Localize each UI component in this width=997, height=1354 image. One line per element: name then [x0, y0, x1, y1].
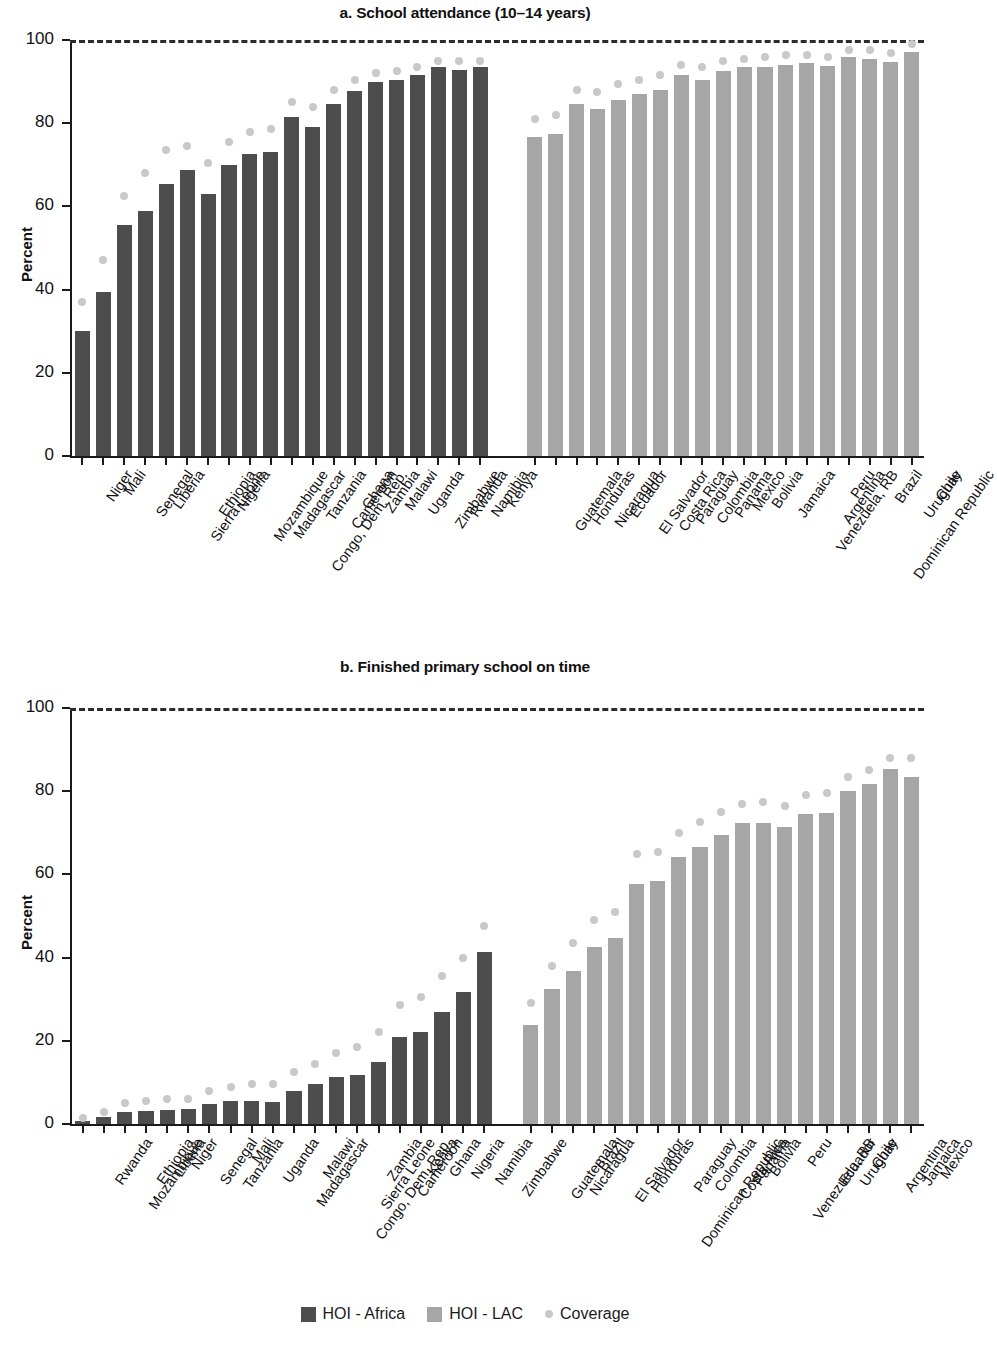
coverage-dot: [845, 46, 853, 54]
x-axis-tick: [762, 1126, 764, 1133]
x-axis-tick: [207, 458, 209, 465]
coverage-dot: [100, 1108, 108, 1116]
bar: [548, 134, 563, 456]
coverage-dot: [248, 1080, 256, 1088]
y-axis-label: 80: [10, 112, 54, 132]
coverage-dot: [438, 972, 446, 980]
coverage-dot: [696, 818, 704, 826]
coverage-dot: [824, 53, 832, 61]
bar: [223, 1101, 238, 1124]
legend-swatch-icon: [301, 1307, 316, 1322]
coverage-dot: [782, 51, 790, 59]
x-axis-tick: [230, 1126, 232, 1133]
coverage-dot: [246, 128, 254, 136]
coverage-dot: [204, 159, 212, 167]
x-axis-tick: [805, 1126, 807, 1133]
bar: [477, 952, 492, 1124]
x-axis-tick: [638, 458, 640, 465]
x-axis-tick: [806, 458, 808, 465]
coverage-dot: [353, 1043, 361, 1051]
x-axis-category-label: Rwanda: [111, 1135, 155, 1188]
y-axis-tick: [62, 1040, 70, 1042]
coverage-dot: [635, 76, 643, 84]
bar: [590, 109, 605, 456]
x-axis-tick: [483, 1126, 485, 1133]
coverage-dot: [434, 57, 442, 65]
bar: [756, 823, 771, 1124]
x-axis-tick: [534, 458, 536, 465]
coverage-dot: [288, 98, 296, 106]
plot-area-a: Percent020406080100NigerMaliSenegalLiber…: [0, 22, 930, 492]
bar: [138, 211, 153, 456]
coverage-dot: [459, 954, 467, 962]
coverage-dot: [205, 1087, 213, 1095]
coverage-dot: [120, 192, 128, 200]
coverage-dot: [393, 67, 401, 75]
coverage-dot: [698, 63, 706, 71]
bar: [798, 814, 813, 1124]
bar: [242, 154, 257, 456]
bar: [695, 80, 710, 456]
coverage-dot: [162, 146, 170, 154]
bar: [305, 127, 320, 456]
x-axis-tick: [354, 458, 356, 465]
bar: [671, 857, 686, 1124]
x-axis-tick: [375, 458, 377, 465]
bar: [371, 1062, 386, 1124]
coverage-dot: [656, 71, 664, 79]
y-axis-title: Percent: [18, 227, 35, 282]
coverage-dot: [527, 999, 535, 1007]
x-axis-tick: [145, 1126, 147, 1133]
bar: [757, 67, 772, 456]
x-axis-tick: [396, 458, 398, 465]
legend-dot-marker-icon: [545, 1310, 553, 1318]
bar: [326, 104, 341, 456]
coverage-dot: [396, 1001, 404, 1009]
coverage-dot: [654, 848, 662, 856]
coverage-dot: [332, 1049, 340, 1057]
x-axis-tick: [889, 1126, 891, 1133]
bar: [263, 152, 278, 456]
y-axis-tick: [62, 873, 70, 875]
y-axis-line: [70, 708, 72, 1125]
coverage-dot: [887, 49, 895, 57]
x-axis-category-label: Uganda: [279, 1135, 321, 1186]
bar: [473, 67, 488, 456]
bar: [434, 1012, 449, 1124]
bar: [392, 1037, 407, 1124]
x-axis-tick: [378, 1126, 380, 1133]
y-axis-tick: [62, 372, 70, 374]
bar: [777, 827, 792, 1124]
x-axis-tick: [699, 1126, 701, 1133]
coverage-dot: [99, 256, 107, 264]
coverage-dot: [290, 1068, 298, 1076]
y-axis-tick: [62, 1123, 70, 1125]
x-axis-tick: [827, 458, 829, 465]
x-axis-tick: [826, 1126, 828, 1133]
bar: [181, 1109, 196, 1124]
coverage-dot: [375, 1028, 383, 1036]
bar: [862, 784, 877, 1124]
coverage-dot: [759, 798, 767, 806]
x-axis-tick: [462, 1126, 464, 1133]
x-axis-tick: [784, 1126, 786, 1133]
x-axis-tick: [720, 1126, 722, 1133]
coverage-dot: [225, 138, 233, 146]
bar: [413, 1032, 428, 1124]
x-axis-tick: [785, 458, 787, 465]
x-axis-tick: [124, 1126, 126, 1133]
x-axis-tick: [186, 458, 188, 465]
x-axis-tick: [228, 458, 230, 465]
coverage-dot: [413, 63, 421, 71]
x-axis-tick: [657, 1126, 659, 1133]
coverage-dot: [548, 962, 556, 970]
y-axis-tick: [62, 957, 70, 959]
bar: [350, 1075, 365, 1124]
coverage-dot: [552, 111, 560, 119]
bar: [117, 1112, 132, 1124]
coverage-dot: [455, 57, 463, 65]
coverage-dot: [183, 142, 191, 150]
x-axis-category-label: Chile: [932, 467, 964, 503]
x-axis-tick: [890, 458, 892, 465]
legend-label: HOI - LAC: [449, 1305, 523, 1323]
